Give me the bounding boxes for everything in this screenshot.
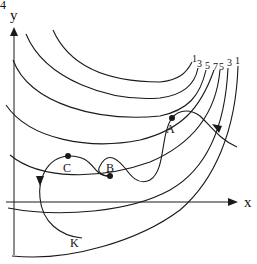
contour-curve-1b xyxy=(12,66,238,257)
point-c-label: C xyxy=(63,161,71,175)
point-a-label: A xyxy=(166,122,175,136)
x-axis-label: x xyxy=(244,194,252,210)
contour-label: 3 xyxy=(197,58,202,69)
contour-curve-1a xyxy=(53,30,192,82)
contour-label: 7 xyxy=(213,61,218,72)
x-axis-arrow-icon xyxy=(228,198,238,206)
point-c xyxy=(65,153,71,159)
point-k-label: K xyxy=(70,236,79,250)
contour-label: 5 xyxy=(205,60,210,71)
point-a xyxy=(169,115,175,121)
contour-label: 5 xyxy=(219,61,224,72)
contour-diagram: 4 y x 1 3 5 7 5 3 1 A B C K xyxy=(0,0,257,264)
trajectory-arrow-down-icon xyxy=(36,176,44,186)
contour-curve-3b xyxy=(8,68,228,213)
contour-curve-3a xyxy=(26,34,198,98)
corner-mark: 4 xyxy=(0,0,6,12)
contour-label: 1 xyxy=(235,55,240,66)
y-axis-label: y xyxy=(10,7,18,23)
contour-label: 3 xyxy=(227,57,232,68)
point-b-label: B xyxy=(106,161,114,175)
y-axis-arrow-icon xyxy=(10,27,18,36)
contour-curve-5a xyxy=(13,60,206,117)
